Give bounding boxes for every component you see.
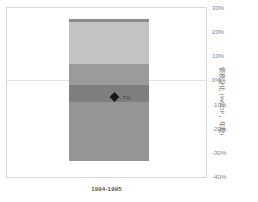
x-axis-category-label: 1994-1995 [6, 186, 207, 192]
bar-band-band-bottom [69, 102, 149, 160]
y-axis-tick-20: 20% [212, 29, 224, 35]
bar-band-band-upper [69, 22, 149, 64]
y-axis-title: 債務變化 (%GDP，年增) [218, 67, 227, 136]
chart-container: -7% 30% 20% 10% 0% -10% -20% -30% -40% 債… [0, 0, 258, 202]
diamond-marker-icon [109, 92, 119, 102]
y-axis-tick-minus40: -40% [212, 174, 226, 180]
marker-value-label: -7% [121, 94, 131, 100]
y-axis-tick-30: 30% [212, 5, 224, 11]
y-axis-tick-minus30: -30% [212, 150, 226, 156]
plot-area: -7% [6, 7, 207, 178]
plot-inner: -7% [7, 8, 206, 177]
bar-band-band-lower [69, 85, 149, 102]
data-marker-group[interactable]: -7% [111, 94, 131, 101]
bar-band-band-mid [69, 64, 149, 86]
y-axis-tick-10: 10% [212, 53, 224, 59]
stacked-bar-1994-1995[interactable] [69, 19, 149, 160]
